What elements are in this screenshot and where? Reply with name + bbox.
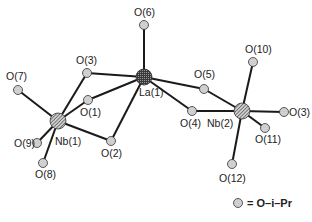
atom-o3-icon (83, 69, 92, 78)
atom-nb2-icon (234, 103, 250, 119)
atom-label: O(8) (35, 168, 56, 180)
atom-o6-icon (140, 21, 149, 30)
atom-o5-icon (200, 85, 209, 94)
atom-label: Nb(1) (55, 135, 81, 147)
atom-label: O(3) (289, 106, 310, 118)
legend-text: = O–i–Pr (247, 197, 293, 209)
atom-o11-icon (261, 124, 270, 133)
atom-nb1-icon (50, 113, 66, 129)
atom-label: Nb(2) (207, 117, 233, 129)
atom-label: O(4) (180, 117, 201, 129)
atom-o4-icon (188, 107, 197, 116)
labels-layer: O(6)O(10)O(3)O(7)O(5)O(1)La(1)O(4)Nb(2)O… (6, 6, 310, 184)
atom-o8-icon (39, 159, 48, 168)
bond-la1-o3 (87, 73, 144, 77)
atom-label: O(1) (80, 106, 101, 118)
atom-label: O(5) (194, 68, 215, 80)
atom-label: O(7) (6, 70, 27, 82)
atom-o10-icon (249, 58, 258, 67)
legend-oxygen-icon (234, 199, 243, 208)
atom-label: O(11) (255, 133, 281, 145)
atom-label: O(9) (14, 137, 35, 149)
atom-label: O(2) (101, 147, 122, 159)
atom-o1-icon (84, 96, 93, 105)
legend: = O–i–Pr (234, 197, 293, 209)
atom-label: O(3) (76, 54, 97, 66)
atom-label: O(10) (245, 43, 272, 55)
atom-label: O(6) (134, 6, 155, 18)
atom-label: La(1) (139, 86, 164, 98)
atom-label: O(12) (219, 172, 246, 184)
atom-o12-icon (228, 160, 237, 169)
atom-o2-icon (107, 137, 116, 146)
atom-la1-icon (136, 69, 152, 85)
bond-la1-o1 (88, 77, 144, 100)
molecular-structure-diagram: O(6)O(10)O(3)O(7)O(5)O(1)La(1)O(4)Nb(2)O… (0, 0, 312, 222)
atom-o7-icon (14, 86, 23, 95)
atom-o3b-icon (280, 108, 289, 117)
